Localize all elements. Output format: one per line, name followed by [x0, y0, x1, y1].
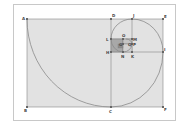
label-O: O [122, 33, 126, 38]
label-G: G [119, 42, 122, 47]
label-I: I [164, 47, 166, 52]
label-A: A [22, 16, 26, 21]
golden-spiral-diagram: A B C D E F G H I J K L M N O P Q [0, 0, 184, 129]
label-H: H [106, 50, 109, 55]
label-J: J [132, 13, 135, 18]
label-N: N [121, 54, 124, 59]
label-F: F [164, 107, 167, 112]
label-C: C [109, 109, 112, 114]
label-E: E [164, 14, 167, 19]
label-L: L [106, 37, 109, 42]
label-P: P [133, 42, 136, 47]
label-Q: Q [128, 42, 132, 47]
outer-rectangle [27, 19, 163, 107]
label-B: B [24, 108, 27, 113]
label-D: D [112, 13, 116, 18]
